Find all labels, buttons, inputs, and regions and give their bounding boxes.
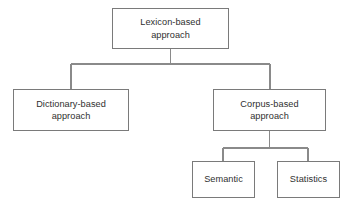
node-label-line-1: Statistics (290, 173, 327, 185)
node-label-line-2: approach (250, 110, 289, 122)
node-semantic: Semantic (192, 161, 255, 198)
diagram-canvas: Lexicon-based approach Dictionary-based … (0, 0, 354, 208)
node-label-line-1: Lexicon-based (140, 16, 200, 28)
node-label-line-1: Semantic (204, 173, 243, 185)
node-label-line-2: approach (151, 29, 190, 41)
node-statistics: Statistics (277, 161, 340, 198)
node-corpus-based-approach: Corpus-based approach (213, 89, 326, 131)
node-dictionary-based-approach: Dictionary-based approach (13, 89, 129, 131)
node-lexicon-based-approach: Lexicon-based approach (112, 8, 229, 49)
node-label-line-1: Dictionary-based (36, 98, 106, 110)
node-label-line-1: Corpus-based (240, 98, 298, 110)
node-label-line-2: approach (52, 110, 91, 122)
